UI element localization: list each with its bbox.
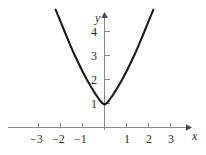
y-tick-marks bbox=[105, 32, 111, 104]
x-tick-label-neg1: −1 bbox=[74, 133, 87, 145]
y-tick-label-3: 3 bbox=[91, 50, 97, 62]
x-tick-label-2: 2 bbox=[146, 133, 152, 145]
y-axis-label: y bbox=[95, 12, 100, 24]
x-tick-label-neg2: −2 bbox=[52, 133, 65, 145]
y-axis-arrow-icon bbox=[101, 12, 108, 18]
y-tick-label-1: 1 bbox=[91, 98, 97, 110]
y-tick-label-2: 2 bbox=[91, 74, 97, 86]
parabola-plot-figure: y x −3 −2 −1 1 2 3 1 2 3 4 bbox=[0, 0, 206, 155]
x-tick-label-neg3: −3 bbox=[30, 133, 43, 145]
x-axis-label: x bbox=[192, 130, 197, 142]
y-tick-label-4: 4 bbox=[91, 26, 97, 38]
x-tick-label-1: 1 bbox=[124, 133, 130, 145]
x-tick-label-3: 3 bbox=[168, 133, 174, 145]
